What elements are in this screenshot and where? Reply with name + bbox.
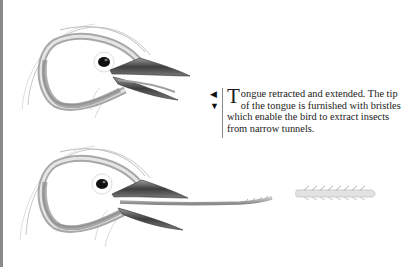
head-retracted-illustration: [22, 24, 190, 118]
caption-body: ongue retracted and extended. The tip of…: [227, 88, 401, 134]
tongue-tip-detail-illustration: [296, 186, 376, 200]
caption-text: Tongue retracted and extended. The tip o…: [227, 88, 402, 134]
left-arrow-icon: ◀: [210, 88, 220, 100]
caption-divider: [222, 88, 223, 138]
caption-dropcap: T: [227, 88, 240, 104]
head-extended-illustration: [20, 146, 272, 247]
down-arrow-icon: ▼: [210, 100, 220, 112]
indicator-arrows: ◀ ▼: [210, 88, 220, 112]
